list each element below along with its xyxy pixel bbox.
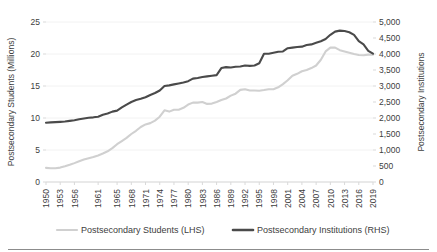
y-axis-right-ticks: 05001,0001,5002,0002,5003,0003,5004,0004… [373,17,401,187]
y-right-tick-label: 2,000 [379,113,401,123]
y-left-tick-label: 0 [35,177,40,187]
chart-legend: Postsecondary Students (LHS)Postsecondar… [57,225,390,235]
x-tick-label: 1974 [155,189,165,208]
legend-label-1: Postsecondary Institutions (RHS) [257,225,390,235]
y-right-tick-label: 0 [379,177,384,187]
x-tick-label: 1965 [112,189,122,208]
x-tick-label: 2001 [283,189,293,208]
x-tick-label: 2013 [340,189,350,208]
x-tick-label: 1989 [226,189,236,208]
y-right-tick-label: 3,000 [379,81,401,91]
x-tick-label: 1995 [254,189,264,208]
y-left-tick-label: 20 [31,49,41,59]
x-tick-label: 1977 [169,189,179,208]
x-tick-label: 1983 [198,189,208,208]
y-left-tick-label: 5 [35,145,40,155]
y-axis-right-title: Postsecondary Institutions [416,52,426,151]
y-right-tick-label: 2,500 [379,97,401,107]
y-right-tick-label: 3,500 [379,65,401,75]
x-tick-label: 1980 [183,189,193,208]
x-tick-label: 1971 [141,189,151,208]
y-axis-left-ticks: 0510152025 [31,17,46,187]
y-right-tick-label: 500 [379,161,393,171]
gridlines [46,22,373,182]
x-tick-label: 1961 [93,189,103,208]
y-right-tick-label: 4,500 [379,33,401,43]
x-tick-label: 2007 [311,189,321,208]
y-left-tick-label: 25 [31,17,41,27]
x-tick-label: 2004 [297,189,307,208]
x-tick-label: 1998 [269,189,279,208]
series-lines [46,31,373,169]
x-tick-label: 1956 [70,189,80,208]
x-axis-ticks: 1950195319561961196519681971197419771980… [41,182,378,208]
y-right-tick-label: 1,000 [379,145,401,155]
x-tick-label: 1968 [127,189,137,208]
x-tick-label: 2016 [354,189,364,208]
line-chart: 0510152025 05001,0001,5002,0002,5003,000… [0,0,437,252]
x-tick-label: 2019 [368,189,378,208]
y-right-tick-label: 4,000 [379,49,401,59]
series-line-institutions [46,31,373,123]
legend-label-0: Postsecondary Students (LHS) [81,225,205,235]
x-tick-label: 1950 [41,189,51,208]
chart-container: 0510152025 05001,0001,5002,0002,5003,000… [0,0,437,252]
x-tick-label: 2010 [326,189,336,208]
x-tick-label: 1986 [212,189,222,208]
x-tick-label: 1992 [240,189,250,208]
y-right-tick-label: 5,000 [379,17,401,27]
y-left-tick-label: 15 [31,81,41,91]
y-axis-left-title: Postsecondary Students (Millions) [6,38,16,167]
x-tick-label: 1953 [55,189,65,208]
y-left-tick-label: 10 [31,113,41,123]
y-right-tick-label: 1,500 [379,129,401,139]
